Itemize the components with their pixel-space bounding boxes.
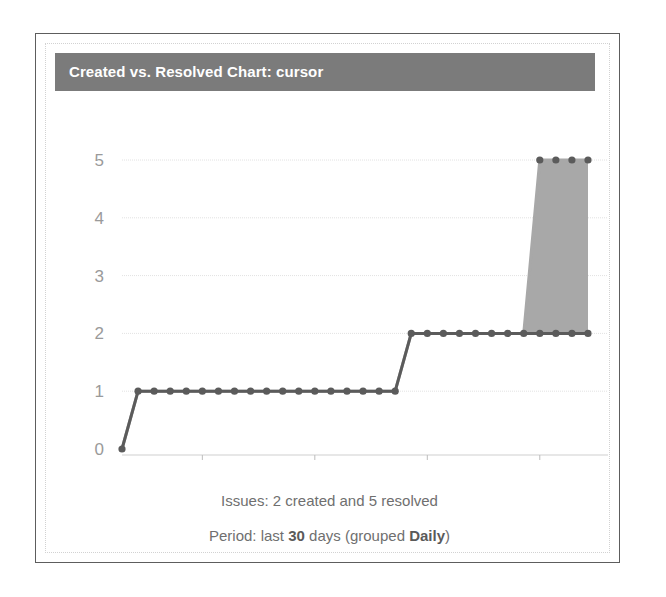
chart-data-point xyxy=(552,330,559,337)
issues-resolved-count: 5 xyxy=(369,492,377,509)
period-middle: days (grouped xyxy=(305,527,409,544)
issues-middle: created and xyxy=(281,492,369,509)
y-axis-tick-label: 4 xyxy=(95,209,104,228)
period-caption: Period: last 30 days (grouped Daily) xyxy=(46,527,613,544)
chart-data-point xyxy=(118,445,125,452)
period-suffix: ) xyxy=(445,527,450,544)
y-axis-tick-label: 0 xyxy=(95,440,104,459)
y-axis-tick-label: 2 xyxy=(95,324,104,343)
chart-data-point xyxy=(279,388,286,395)
chart-data-point xyxy=(199,388,206,395)
chart-data-point xyxy=(408,330,415,337)
chart-data-point xyxy=(568,330,575,337)
chart-gadget-panel: Created vs. Resolved Chart: cursor 01234… xyxy=(45,43,610,553)
chart-gadget-header: Created vs. Resolved Chart: cursor xyxy=(55,53,595,91)
issues-suffix: resolved xyxy=(377,492,438,509)
period-days: 30 xyxy=(288,527,305,544)
chart-data-point xyxy=(343,388,350,395)
chart-data-point xyxy=(568,156,575,163)
chart-data-point xyxy=(456,330,463,337)
issues-prefix: Issues: xyxy=(221,492,273,509)
chart-data-point xyxy=(584,156,591,163)
chart-captions: Issues: 2 created and 5 resolved Period:… xyxy=(46,492,613,562)
chart-area-fill xyxy=(122,160,588,449)
chart-plot-svg: 012345 14-Sep21-Sep28-Sep5-Oct xyxy=(55,100,620,470)
chart-data-point xyxy=(263,388,270,395)
created-vs-resolved-chart: 012345 14-Sep21-Sep28-Sep5-Oct xyxy=(55,100,620,470)
chart-data-point xyxy=(488,330,495,337)
chart-data-point xyxy=(504,330,511,337)
chart-data-point xyxy=(520,330,527,337)
chart-data-point xyxy=(295,388,302,395)
y-axis-tick-label: 5 xyxy=(95,151,104,170)
x-axis-tick-label: 5-Oct xyxy=(521,467,559,470)
period-grouping: Daily xyxy=(409,527,445,544)
chart-data-point xyxy=(424,330,431,337)
chart-y-axis-labels: 012345 xyxy=(95,151,104,459)
chart-data-point xyxy=(552,156,559,163)
chart-data-point xyxy=(183,388,190,395)
chart-data-point xyxy=(536,330,543,337)
chart-data-point xyxy=(472,330,479,337)
chart-data-point xyxy=(231,388,238,395)
chart-data-point xyxy=(327,388,334,395)
chart-data-point xyxy=(247,388,254,395)
issues-summary-caption: Issues: 2 created and 5 resolved xyxy=(46,492,613,509)
chart-data-point xyxy=(359,388,366,395)
issues-created-count: 2 xyxy=(273,492,281,509)
y-axis-tick-label: 3 xyxy=(95,267,104,286)
chart-data-point xyxy=(167,388,174,395)
page-title: Created vs. Resolved Chart: cursor xyxy=(69,63,323,80)
period-prefix: Period: last xyxy=(209,527,288,544)
x-axis-tick-label: 21-Sep xyxy=(291,467,339,470)
chart-x-axis xyxy=(122,455,608,460)
chart-data-point xyxy=(584,330,591,337)
x-axis-tick-label: 14-Sep xyxy=(178,467,226,470)
chart-series-resolved-line xyxy=(122,160,588,449)
chart-data-point xyxy=(392,388,399,395)
chart-data-point xyxy=(536,156,543,163)
chart-series-layer xyxy=(118,156,591,452)
chart-data-point xyxy=(134,388,141,395)
x-axis-tick-label: 28-Sep xyxy=(403,467,451,470)
chart-data-point xyxy=(376,388,383,395)
chart-data-point xyxy=(311,388,318,395)
chart-data-point xyxy=(151,388,158,395)
y-axis-tick-label: 1 xyxy=(95,382,104,401)
chart-data-point xyxy=(440,330,447,337)
chart-gadget-frame: Created vs. Resolved Chart: cursor 01234… xyxy=(35,33,620,563)
chart-data-point xyxy=(215,388,222,395)
chart-x-axis-labels: 14-Sep21-Sep28-Sep5-Oct xyxy=(178,467,559,470)
